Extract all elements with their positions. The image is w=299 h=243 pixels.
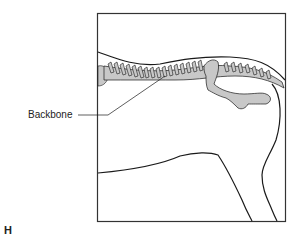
figure-letter: H <box>4 225 12 236</box>
backbone-label: Backbone <box>28 110 72 120</box>
figure-frame <box>98 14 286 222</box>
backbone-diagram <box>0 0 299 243</box>
